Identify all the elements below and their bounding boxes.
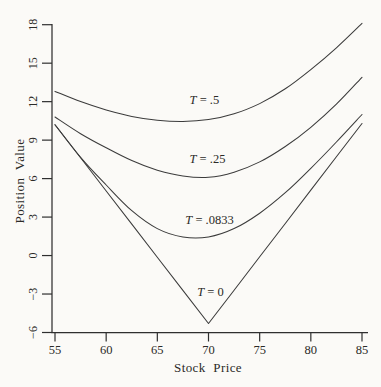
curve-label-value: = .25 [196, 152, 225, 166]
curve-label-value: = 0 [204, 285, 224, 299]
curve-line-0 [55, 23, 362, 121]
y-tick-label: 15 [26, 57, 40, 69]
x-tick-label: 70 [202, 343, 215, 357]
y-tick-label: 0 [26, 253, 40, 259]
y-tick-label: 9 [26, 137, 40, 143]
curve-label-3: T = 0 [197, 285, 224, 299]
x-tick-label: 85 [356, 343, 369, 357]
x-tick-label: 55 [49, 343, 62, 357]
y-tick-label: 18 [26, 19, 40, 31]
curve-label-value: = .5 [197, 93, 220, 107]
y-tick-label: 6 [26, 176, 40, 182]
x-tick-label: 65 [151, 343, 164, 357]
y-tick-label: −3 [26, 288, 40, 301]
x-tick-label: 60 [100, 343, 113, 357]
curve-label-0: T = .5 [190, 93, 220, 107]
y-tick-label: 12 [26, 96, 40, 108]
x-axis-title: Stock Price [174, 360, 242, 376]
y-tick-label: 3 [26, 214, 40, 220]
figure-page: 1815129630−3−655606570758085T = .5T = .2… [0, 0, 381, 387]
x-tick-label: 80 [305, 343, 318, 357]
chart-canvas: 1815129630−3−655606570758085T = .5T = .2… [0, 0, 381, 387]
curve-label-1: T = .25 [190, 152, 226, 166]
y-tick-label: −6 [26, 326, 40, 339]
x-tick-label: 75 [253, 343, 266, 357]
curve-label-2: T = .0833 [185, 213, 233, 227]
y-axis-title: Position Value [12, 139, 28, 224]
curve-label-value: = .0833 [192, 213, 233, 227]
